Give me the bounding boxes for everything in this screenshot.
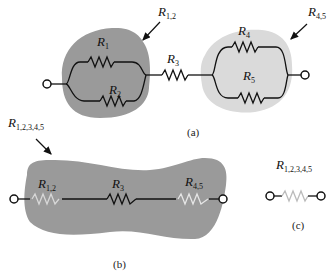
terminal-b-right bbox=[219, 195, 227, 203]
caption-b: (b) bbox=[113, 258, 126, 271]
terminal-c-right bbox=[317, 192, 325, 200]
caption-a: (a) bbox=[187, 126, 200, 139]
blob-r12345 bbox=[24, 158, 226, 239]
resistor-r3 bbox=[162, 70, 188, 80]
terminal-b-left bbox=[10, 195, 18, 203]
terminal-a-left bbox=[43, 80, 51, 88]
resistor-r12345-equiv bbox=[282, 191, 308, 201]
circuit-diagram: R1 R2 R3 R4 R5 R1,2 R4,5 (a) R1,2,3,4,5 … bbox=[0, 0, 334, 277]
label-r12-blob: R1,2 bbox=[157, 4, 176, 21]
label-r45-blob: R4,5 bbox=[307, 4, 326, 21]
label-r12345-blob: R1,2,3,4,5 bbox=[7, 115, 44, 132]
terminal-a-right bbox=[301, 71, 309, 79]
label-r4: R4 bbox=[237, 23, 250, 40]
label-r3: R3 bbox=[166, 51, 179, 68]
caption-c: (c) bbox=[292, 219, 305, 232]
label-r12345-c: R1,2,3,4,5 bbox=[275, 157, 312, 174]
terminal-c-left bbox=[266, 192, 274, 200]
